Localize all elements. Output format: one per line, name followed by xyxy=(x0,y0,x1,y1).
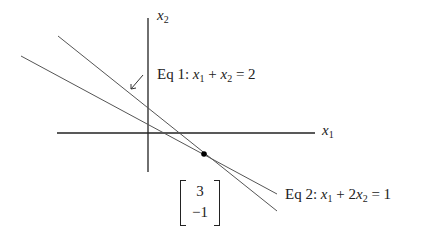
x2-axis-label: x2 xyxy=(157,8,169,25)
x1-axis-label: x1 xyxy=(322,123,334,140)
eq1-label: Eq 1: x1 + x2 = 2 xyxy=(157,67,256,84)
eq1-line xyxy=(58,36,277,211)
arrow-icon xyxy=(131,75,143,89)
eq2-label: Eq 2: x1 + 2x2 = 1 xyxy=(285,187,391,204)
intersection-point xyxy=(201,151,207,157)
solution-vector: 3 −1 xyxy=(180,178,220,226)
solution-top: 3 xyxy=(180,183,220,200)
solution-bottom: −1 xyxy=(180,204,220,221)
